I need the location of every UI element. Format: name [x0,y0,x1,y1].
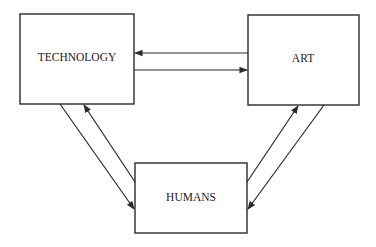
technology-label: TECHNOLOGY [38,51,117,63]
node-technology: TECHNOLOGY [20,14,134,104]
arrow-humans-to-technology [84,105,135,182]
arrow-technology-to-humans [60,104,134,209]
node-art: ART [248,15,359,105]
diagram-canvas: TECHNOLOGY ART HUMANS [0,0,376,247]
art-label: ART [292,52,314,64]
arrow-art-to-humans [248,105,324,209]
arrow-humans-to-art [247,106,298,182]
node-humans: HUMANS [135,163,247,233]
humans-label: HUMANS [166,191,216,203]
